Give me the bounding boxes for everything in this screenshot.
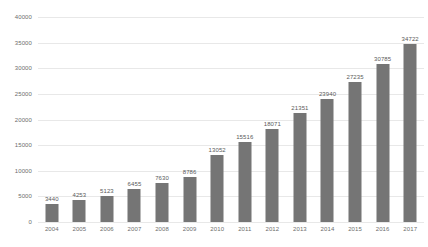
bar-value-label: 21351: [291, 105, 308, 111]
bar-group: 6455: [121, 17, 149, 222]
bar-group: 3440: [38, 17, 66, 222]
bar[interactable]: [266, 129, 279, 222]
bar-group: 23940: [314, 17, 342, 222]
bar[interactable]: [293, 113, 306, 222]
bar[interactable]: [73, 200, 86, 222]
bar[interactable]: [404, 44, 417, 222]
bar[interactable]: [238, 142, 251, 222]
x-axis-tick-label: 2014: [314, 226, 342, 232]
bar-value-label: 13052: [209, 147, 226, 153]
bar-group: 18071: [259, 17, 287, 222]
x-axis-tick-label: 2006: [93, 226, 121, 232]
x-axis: 2004200520062007200820092010201120122013…: [38, 226, 424, 240]
bar[interactable]: [45, 204, 58, 222]
x-axis-tick-label: 2011: [231, 226, 259, 232]
x-axis-tick-label: 2012: [259, 226, 287, 232]
bar-value-label: 30785: [374, 56, 391, 62]
y-axis-tick-label: 30000: [15, 65, 32, 71]
x-axis-tick-label: 2016: [369, 226, 397, 232]
bar-value-label: 4253: [72, 192, 86, 198]
y-axis-tick-label: 10000: [15, 168, 32, 174]
bar[interactable]: [376, 64, 389, 222]
x-axis-tick-label: 2007: [121, 226, 149, 232]
bar-value-label: 6455: [128, 181, 142, 187]
y-axis-tick-label: 25000: [15, 91, 32, 97]
bar[interactable]: [156, 183, 169, 222]
bar-value-label: 5123: [100, 188, 114, 194]
bar-value-label: 27235: [346, 74, 363, 80]
x-axis-tick-label: 2005: [66, 226, 94, 232]
y-axis-tick-label: 0: [29, 219, 32, 225]
x-axis-tick-label: 2017: [396, 226, 424, 232]
bar-series: 3440425351236455763087861305215516180712…: [38, 17, 424, 222]
bar-value-label: 7630: [155, 175, 169, 181]
bar-group: 15516: [231, 17, 259, 222]
y-axis-tick-label: 40000: [15, 14, 32, 20]
y-axis-tick-label: 5000: [18, 193, 32, 199]
bar-value-label: 23940: [319, 91, 336, 97]
bar-value-label: 15516: [236, 134, 253, 140]
plot-area: 3440425351236455763087861305215516180712…: [38, 17, 424, 222]
bar[interactable]: [100, 196, 113, 222]
bar[interactable]: [128, 189, 141, 222]
bar[interactable]: [349, 82, 362, 222]
bar[interactable]: [183, 177, 196, 222]
bar-group: 30785: [369, 17, 397, 222]
bar-chart: 4000035000300002500020000150001000050000…: [0, 0, 428, 247]
bar[interactable]: [211, 155, 224, 222]
bar-group: 27235: [341, 17, 369, 222]
y-axis-tick-label: 35000: [15, 40, 32, 46]
gridline: [38, 222, 424, 223]
x-axis-tick-label: 2015: [341, 226, 369, 232]
bar-group: 7630: [148, 17, 176, 222]
x-axis-tick-label: 2004: [38, 226, 66, 232]
x-axis-tick-label: 2008: [148, 226, 176, 232]
bar-group: 5123: [93, 17, 121, 222]
bar-group: 4253: [66, 17, 94, 222]
x-axis-tick-label: 2009: [176, 226, 204, 232]
x-axis-tick-label: 2010: [203, 226, 231, 232]
bar[interactable]: [321, 99, 334, 222]
bar-group: 13052: [203, 17, 231, 222]
bar-value-label: 3440: [45, 196, 59, 202]
y-axis-tick-label: 20000: [15, 117, 32, 123]
bar-group: 21351: [286, 17, 314, 222]
bar-value-label: 8786: [183, 169, 197, 175]
x-axis-tick-label: 2013: [286, 226, 314, 232]
bar-group: 8786: [176, 17, 204, 222]
y-axis-tick-label: 15000: [15, 142, 32, 148]
bar-value-label: 34722: [402, 36, 419, 42]
bar-value-label: 18071: [264, 121, 281, 127]
bar-group: 34722: [396, 17, 424, 222]
y-axis: 4000035000300002500020000150001000050000: [0, 0, 36, 247]
